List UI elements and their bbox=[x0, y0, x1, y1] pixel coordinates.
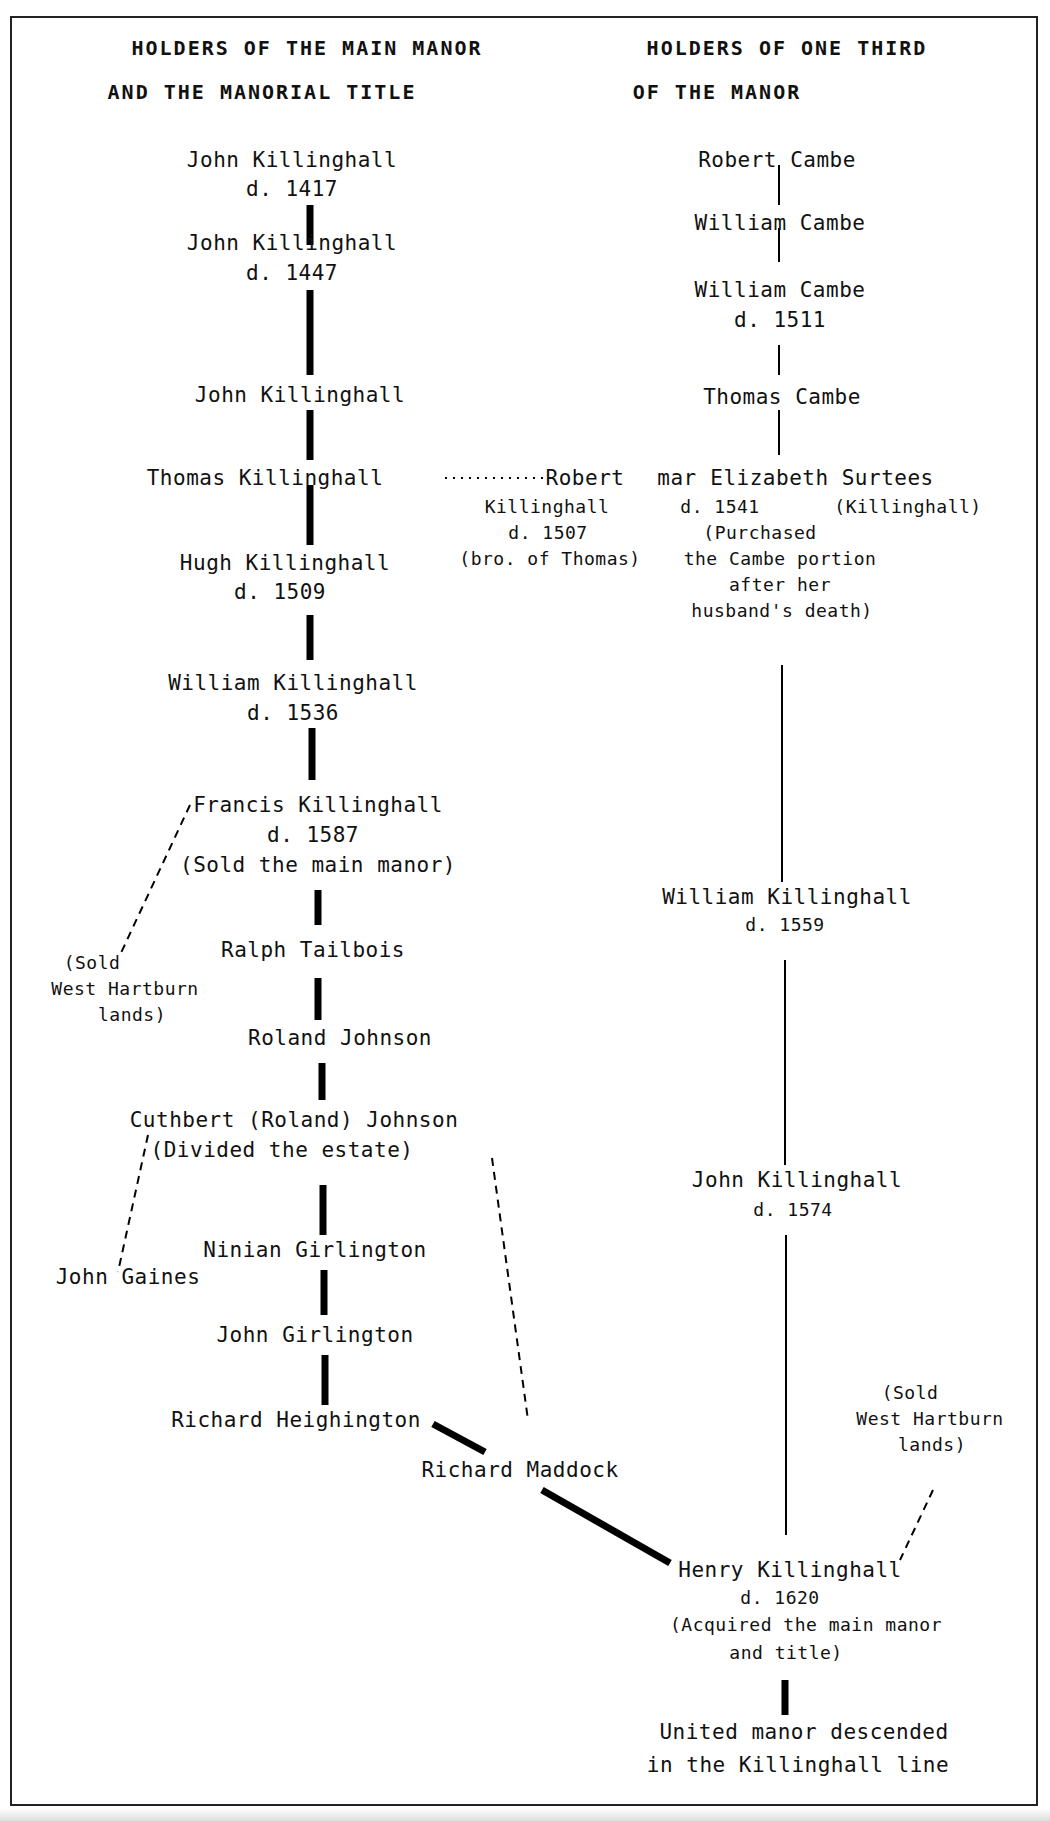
holder-name: William Cambe bbox=[695, 275, 866, 305]
holder-name: Ninian Girlington bbox=[203, 1235, 426, 1265]
henry-note: and title) bbox=[729, 1640, 842, 1665]
header-third-line1: HOLDERS OF ONE THIRD bbox=[647, 33, 928, 63]
header-main-line2: AND THE MANORIAL TITLE bbox=[108, 77, 417, 107]
holder-date: d. 1509 bbox=[234, 577, 326, 607]
robert-name: Robert bbox=[546, 463, 625, 493]
holder-name: Ralph Tailbois bbox=[221, 935, 405, 965]
henry-name: Henry Killinghall bbox=[678, 1555, 901, 1585]
holder-name: John Killinghall bbox=[195, 380, 405, 410]
side-note: John Gaines bbox=[56, 1262, 201, 1292]
holder-name: Richard Heighington bbox=[171, 1405, 421, 1435]
holder-name: Roland Johnson bbox=[248, 1023, 432, 1053]
holder-date: d. 1587 bbox=[267, 820, 359, 850]
side-note: West Hartburn bbox=[51, 976, 198, 1001]
marriage-label: mar bbox=[657, 463, 696, 493]
dashed-connectors bbox=[118, 478, 933, 1560]
holder-name: John Girlington bbox=[216, 1320, 413, 1350]
robert-relation: (bro. of Thomas) bbox=[459, 546, 640, 571]
holder-name: John Killinghall bbox=[187, 228, 397, 258]
holder-name: Thomas Cambe bbox=[703, 382, 861, 412]
married-name: (Killinghall) bbox=[834, 494, 981, 519]
holder-name: William Cambe bbox=[695, 208, 866, 238]
holder-note: (Divided the estate) bbox=[151, 1135, 414, 1165]
side-note: West Hartburn bbox=[856, 1406, 1003, 1431]
holder-date: d. 1447 bbox=[246, 258, 338, 288]
holder-date: d. 1511 bbox=[734, 305, 826, 335]
henry-note: (Acquired the main manor bbox=[670, 1612, 942, 1637]
robert-surname: Killinghall bbox=[485, 494, 610, 519]
final-note: in the Killinghall line bbox=[647, 1750, 949, 1780]
henry-date: d. 1620 bbox=[740, 1585, 819, 1610]
holder-name: John Killinghall bbox=[692, 1165, 902, 1195]
holder-name: Francis Killinghall bbox=[193, 790, 443, 820]
holder-note: husband's death) bbox=[691, 598, 872, 623]
holder-date: d. 1559 bbox=[745, 912, 824, 937]
holder-date: d. 1541 bbox=[680, 494, 759, 519]
header-third-line2: OF THE MANOR bbox=[633, 77, 802, 107]
holder-date: d. 1574 bbox=[753, 1197, 832, 1222]
robert-date: d. 1507 bbox=[508, 520, 587, 545]
holder-name: William Killinghall bbox=[168, 668, 418, 698]
holder-name: Elizabeth Surtees bbox=[710, 463, 933, 493]
holder-note: the Cambe portion bbox=[684, 546, 877, 571]
side-note: lands) bbox=[898, 1432, 966, 1457]
holder-name: Thomas Killinghall bbox=[147, 463, 384, 493]
side-note: lands) bbox=[98, 1002, 166, 1027]
side-note: (Sold bbox=[64, 950, 121, 975]
holder-date: d. 1417 bbox=[246, 174, 338, 204]
holder-note: after her bbox=[729, 572, 831, 597]
holder-name: William Killinghall bbox=[662, 882, 912, 912]
holder-name: Richard Maddock bbox=[421, 1455, 618, 1485]
header-main-line1: HOLDERS OF THE MAIN MANOR bbox=[131, 33, 482, 63]
holder-name: Hugh Killinghall bbox=[180, 548, 390, 578]
third-descent-line bbox=[779, 165, 786, 1535]
holder-note: (Sold the main manor) bbox=[180, 850, 456, 880]
holder-name: John Killinghall bbox=[187, 145, 397, 175]
final-note: United manor descended bbox=[659, 1717, 948, 1747]
holder-note: (Purchased bbox=[703, 520, 816, 545]
holder-name: Cuthbert (Roland) Johnson bbox=[130, 1105, 459, 1135]
holder-name: Robert Cambe bbox=[698, 145, 856, 175]
side-note: (Sold bbox=[882, 1380, 939, 1405]
holder-date: d. 1536 bbox=[247, 698, 339, 728]
